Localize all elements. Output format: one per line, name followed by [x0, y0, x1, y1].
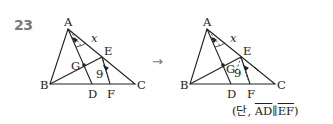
segment-ef: EF: [278, 104, 294, 118]
note-suffix: ): [294, 104, 299, 118]
arrow-icon: →: [152, 54, 163, 69]
segment-ad: AD: [255, 104, 273, 118]
label-d-right: D: [227, 87, 236, 101]
label-f-left: F: [107, 87, 115, 101]
length-label-9-left: 9: [96, 67, 103, 81]
angle-label-x-left: x: [91, 31, 98, 45]
label-b-left: B: [40, 78, 48, 92]
centroid-g-left: [82, 63, 86, 67]
label-c-left: C: [137, 78, 146, 92]
label-e-right: E: [243, 44, 251, 58]
label-g-left: G: [71, 59, 80, 73]
condition-note: (단, AD∥EF): [232, 102, 299, 118]
median-ad: [68, 29, 92, 84]
label-d-left: D: [88, 87, 97, 101]
label-e-left: E: [104, 44, 112, 58]
label-c-right: C: [277, 78, 286, 92]
length-label-9-right: 9: [234, 66, 241, 80]
centroid-g-right: [221, 63, 225, 67]
note-prefix: (단,: [232, 104, 255, 118]
label-b-right: B: [180, 78, 188, 92]
label-a-right: A: [202, 15, 212, 29]
angle-label-x-right: x: [230, 31, 237, 45]
label-a-left: A: [63, 15, 73, 29]
arrowhead-ef: [104, 66, 108, 70]
tick-ec-right: [255, 67, 258, 71]
label-f-right: F: [247, 87, 255, 101]
